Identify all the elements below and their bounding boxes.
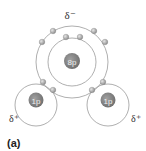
hydrogen-left-charge-label: δ⁺: [9, 113, 19, 124]
hydrogen-right-nucleus-label: 1p: [104, 97, 113, 106]
hydrogen-left-nucleus-label: 1p: [32, 97, 41, 106]
oxygen-nucleus-label: 8p: [68, 58, 77, 67]
oxygen-charge-label: δ⁻: [64, 9, 75, 21]
water-molecule-diagram: δ⁻ 8p 1p 1p δ⁺ δ⁺ (a): [0, 0, 146, 151]
hydrogen-right-charge-label: δ⁺: [131, 113, 141, 124]
figure-caption: (a): [7, 137, 21, 149]
